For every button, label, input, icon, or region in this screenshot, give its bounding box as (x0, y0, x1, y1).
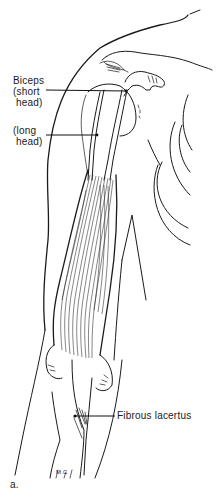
label-biceps: Biceps (13, 75, 44, 86)
rib-curve-1 (183, 95, 192, 150)
short-head-tendon (104, 90, 122, 180)
label-fibrous-lacertus: Fibrous lacertus (117, 410, 191, 421)
label-long: (long (13, 125, 36, 136)
label-short: (short (13, 86, 40, 97)
label-long-head: head) (16, 136, 43, 147)
fibrous-lacertus-fibers (74, 408, 87, 438)
lateral-epicondyle (96, 355, 112, 391)
medial-epicondyle (46, 345, 62, 379)
leader-short-head (46, 90, 126, 91)
long-head-tendon (88, 92, 100, 180)
humeral-head (88, 84, 136, 136)
muscle-fibers (61, 175, 113, 358)
artist-signature: M.C (56, 469, 68, 476)
panel-label: a. (10, 479, 19, 490)
biceps-belly-left (53, 170, 88, 345)
deltoid-v (122, 215, 146, 300)
clavicle (102, 51, 212, 70)
forearm-left (15, 330, 45, 475)
rib-curve-5 (154, 165, 190, 245)
neck-outline (190, 10, 200, 14)
label-short-head: head) (16, 97, 43, 108)
coracoid-process (124, 71, 164, 96)
rib-curve-4 (157, 162, 188, 228)
